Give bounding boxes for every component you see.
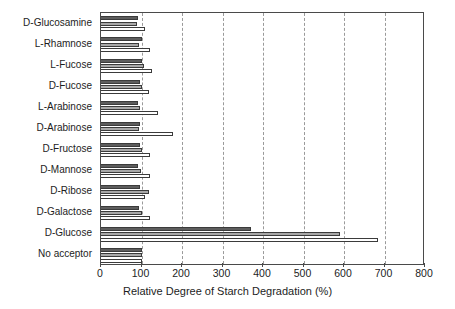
x-tick-label: 500	[294, 267, 312, 279]
y-tick-label: D-Ribose	[50, 186, 92, 196]
bar-3	[101, 259, 142, 263]
bar-3	[101, 174, 150, 178]
bar-1	[101, 248, 142, 252]
bar-group	[101, 182, 423, 203]
bar-group	[101, 118, 423, 139]
plot-area	[100, 12, 424, 265]
bar-3	[101, 48, 150, 52]
bar-2	[101, 64, 144, 68]
x-axis-title: Relative Degree of Starch Degradation (%…	[0, 285, 455, 297]
bar-1	[101, 143, 140, 147]
bar-1	[101, 206, 139, 210]
bar-1	[101, 185, 140, 189]
y-tick-label: L-Fucose	[50, 60, 92, 70]
x-tick-label: 700	[375, 267, 393, 279]
y-tick-label: D-Fructose	[43, 144, 92, 154]
bar-1	[101, 122, 140, 126]
bar-group	[101, 203, 423, 224]
bar-group	[101, 76, 423, 97]
bar-3	[101, 27, 145, 31]
bar-group	[101, 34, 423, 55]
y-tick-label: No acceptor	[38, 249, 92, 259]
x-tick-label: 200	[172, 267, 190, 279]
y-tick-label: D-Fucose	[49, 81, 92, 91]
bar-group	[101, 13, 423, 34]
x-tick-label: 600	[334, 267, 352, 279]
bar-1	[101, 59, 142, 63]
y-axis-labels: D-GlucosamineL-RhamnoseL-FucoseD-FucoseL…	[0, 12, 96, 265]
y-tick-label: L-Rhamnose	[35, 39, 92, 49]
bar-3	[101, 238, 378, 242]
bar-2	[101, 22, 137, 26]
bar-1	[101, 16, 138, 20]
bar-group	[101, 224, 423, 245]
bar-2	[101, 148, 142, 152]
bar-2	[101, 232, 340, 236]
y-tick-label: D-Glucosamine	[23, 18, 92, 28]
bar-1	[101, 37, 142, 41]
bar-rows	[101, 13, 423, 264]
x-tick-label: 0	[97, 267, 103, 279]
y-tick-label: D-Mannose	[40, 165, 92, 175]
bar-3	[101, 111, 158, 115]
bar-2	[101, 190, 149, 194]
x-tick-label: 100	[132, 267, 150, 279]
x-tick-label: 300	[213, 267, 231, 279]
bar-group	[101, 55, 423, 76]
x-tick-label: 400	[253, 267, 271, 279]
bar-3	[101, 216, 150, 220]
bar-1	[101, 101, 138, 105]
bar-3	[101, 195, 145, 199]
bar-2	[101, 253, 142, 257]
x-axis-labels: 0100200300400500600700800	[0, 267, 455, 281]
bar-group	[101, 161, 423, 182]
bar-3	[101, 153, 150, 157]
bar-1	[101, 227, 251, 231]
y-tick-label: D-Arabinose	[36, 123, 92, 133]
bar-3	[101, 90, 149, 94]
bar-chart-figure: D-GlucosamineL-RhamnoseL-FucoseD-FucoseL…	[0, 0, 455, 309]
y-tick-label: L-Arabinose	[38, 102, 92, 112]
bar-group	[101, 140, 423, 161]
bar-1	[101, 80, 140, 84]
bar-2	[101, 106, 140, 110]
y-tick-label: D-Galactose	[36, 207, 92, 217]
bar-2	[101, 211, 142, 215]
bar-2	[101, 85, 142, 89]
x-tick-label: 800	[415, 267, 433, 279]
bar-2	[101, 169, 141, 173]
bar-1	[101, 164, 138, 168]
bar-2	[101, 127, 139, 131]
bar-2	[101, 43, 139, 47]
bar-group	[101, 97, 423, 118]
bar-3	[101, 69, 152, 73]
bar-3	[101, 132, 173, 136]
y-tick-label: D-Glucose	[45, 228, 92, 238]
